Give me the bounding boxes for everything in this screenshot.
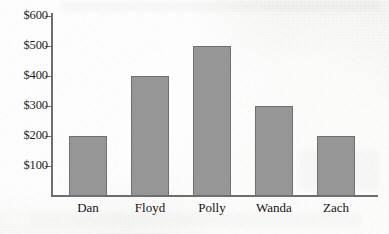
bar-chart-figure: $100$200$300$400$500$600DanFloydPollyWan… [0, 0, 389, 234]
bar-dan [69, 136, 107, 196]
y-axis-tick-label: $500 [2, 38, 48, 53]
x-axis-label-dan: Dan [57, 200, 119, 216]
bar-polly [193, 46, 231, 196]
y-axis-tick-label: $400 [2, 68, 48, 83]
bar-zach [317, 136, 355, 196]
plot-area: $100$200$300$400$500$600DanFloydPollyWan… [0, 0, 389, 234]
y-axis-tick-label: $600 [2, 8, 48, 23]
y-axis-tick-label: $100 [2, 158, 48, 173]
bar-wanda [255, 106, 293, 196]
x-axis-label-wanda: Wanda [243, 200, 305, 216]
y-axis-tick-label: $200 [2, 128, 48, 143]
bar-floyd [131, 76, 169, 196]
y-axis-tick-label: $300 [2, 98, 48, 113]
x-axis-label-polly: Polly [181, 200, 243, 216]
x-axis-label-floyd: Floyd [119, 200, 181, 216]
y-axis-line [51, 13, 53, 197]
x-axis-label-zach: Zach [305, 200, 367, 216]
